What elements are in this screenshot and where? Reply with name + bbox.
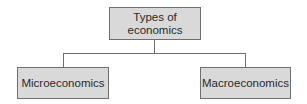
root-label-line2: economics — [128, 24, 183, 37]
child-node-microeconomics: Microeconomics — [17, 67, 109, 99]
connector-right-drop — [245, 53, 246, 67]
connector-left-drop — [63, 53, 64, 67]
root-label-line1: Types of — [133, 11, 176, 24]
connector-horizontal — [63, 53, 246, 54]
child-label-macroeconomics: Macroeconomics — [202, 77, 289, 90]
child-label-microeconomics: Microeconomics — [21, 77, 104, 90]
root-node-types-of-economics: Types of economics — [109, 7, 201, 40]
child-node-macroeconomics: Macroeconomics — [200, 67, 291, 99]
connector-stem — [154, 40, 155, 54]
